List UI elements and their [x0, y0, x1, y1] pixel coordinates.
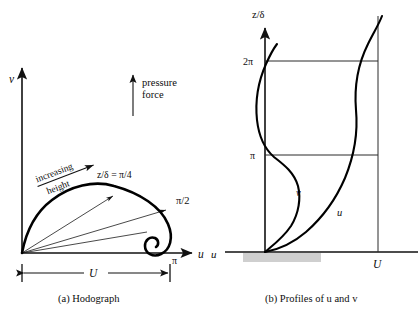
- u-curve-label: u: [337, 207, 342, 218]
- panel-a-U-dimension: U: [22, 264, 170, 282]
- ytick-label-pi: π: [250, 150, 255, 161]
- panel-a-v-axis-label: v: [9, 73, 15, 85]
- panel-b-caption: (b) Profiles of u and v: [265, 293, 358, 305]
- hodograph-ray-pi-4: [22, 196, 113, 253]
- panel-b-profiles: z/δ u U 2π π u v (b) Profiles of u and v: [211, 9, 418, 305]
- figure-root: v u pressure force increasing height z/δ…: [0, 0, 418, 317]
- pressure-force-label-line2: force: [142, 89, 164, 100]
- panel-b-z-axis-label: z/δ: [252, 9, 265, 20]
- panel-b-U-label: U: [373, 258, 382, 270]
- panel-a-hodograph: v u pressure force increasing height z/δ…: [9, 68, 204, 305]
- panel-b-u-axis-label: u: [211, 248, 217, 260]
- u-profile-curve: [265, 16, 382, 252]
- v-profile-curve: [256, 44, 299, 252]
- ground-hatch: [243, 253, 321, 262]
- panel-a-caption: (a) Hodograph: [58, 293, 120, 305]
- hodograph-label-pi-over-2: π/2: [176, 195, 189, 206]
- hodograph-label-pi: π: [172, 255, 177, 266]
- pressure-force-label-line1: pressure: [142, 77, 177, 88]
- U-dim-label: U: [89, 267, 98, 279]
- ytick-label-2pi: 2π: [243, 56, 253, 67]
- increasing-height-label-line1: increasing: [34, 161, 74, 184]
- hodograph-ray-extra: [22, 232, 147, 253]
- increasing-height-label-line2: height: [45, 178, 71, 196]
- panel-a-u-axis-label: u: [198, 248, 204, 260]
- ekman-figure-svg: v u pressure force increasing height z/δ…: [0, 0, 418, 317]
- v-curve-label: v: [296, 187, 301, 198]
- hodograph-label-pi-over-4: z/δ = π/4: [97, 169, 132, 180]
- hodograph-spiral-curve: [22, 184, 171, 256]
